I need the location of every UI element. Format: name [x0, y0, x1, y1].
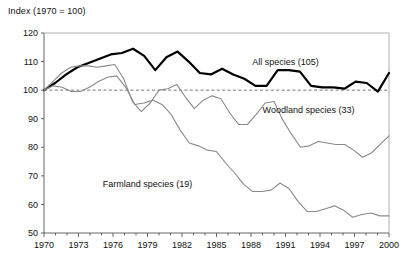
- x-tick-label: 1982: [172, 240, 192, 250]
- x-tick-label: 1973: [68, 240, 88, 250]
- series-label-0: All species (105): [252, 57, 319, 67]
- y-tick-label: 100: [23, 85, 38, 95]
- x-tick-label: 1991: [275, 240, 295, 250]
- x-tick-label: 1994: [310, 240, 330, 250]
- y-tick-label: 110: [24, 57, 38, 67]
- x-tick-label: 1985: [206, 240, 226, 250]
- series-annotations-group: All species (105)Woodland species (33)Fa…: [103, 57, 355, 190]
- x-tick-label: 1997: [344, 240, 364, 250]
- data-series-group: [44, 49, 389, 218]
- y-tick-label: 120: [23, 28, 38, 38]
- x-tick-label: 1970: [34, 240, 54, 250]
- y-tick-label: 50: [28, 228, 38, 238]
- series-line-0: [44, 49, 389, 92]
- series-label-1: Woodland species (33): [263, 105, 355, 115]
- y-tick-label: 80: [28, 142, 38, 152]
- series-label-2: Farmland species (19): [103, 179, 193, 189]
- y-axis: 5060708090100110120: [23, 28, 44, 238]
- x-tick-label: 1976: [103, 240, 123, 250]
- chart-figure: Index (1970 = 100) 5060708090100110120 1…: [0, 0, 403, 264]
- x-tick-label: 1988: [241, 240, 261, 250]
- y-tick-label: 60: [28, 200, 38, 210]
- x-tick-label: 1979: [137, 240, 157, 250]
- y-tick-label: 70: [28, 171, 38, 181]
- line-chart-plot: 5060708090100110120 19701973197619791982…: [0, 0, 403, 264]
- y-tick-label: 90: [28, 114, 38, 124]
- x-tick-label: 2000: [379, 240, 399, 250]
